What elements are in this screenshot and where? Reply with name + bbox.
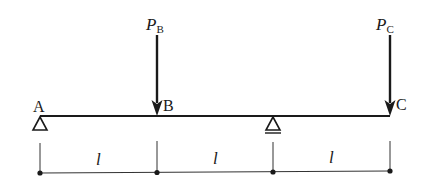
roller-support [265,117,281,133]
dimension-line [40,171,390,173]
load-label-pc: PC [375,15,394,35]
point-label-b: B [163,97,174,114]
dimension-label-sc: l [329,148,334,167]
point-label-a: A [33,98,45,115]
dimension-label-ab: l [96,150,101,169]
beam-diagram: PB PC A B C l l l [0,0,425,186]
load-label-pb: PB [145,15,164,35]
load-arrow-pb [152,35,163,116]
dimension-label-bs: l [213,149,218,168]
load-arrow-pc [385,35,396,116]
pin-support-a [33,117,47,130]
point-label-c: C [396,96,407,113]
